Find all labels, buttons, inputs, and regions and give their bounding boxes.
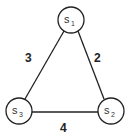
edge-s1-s2: [78, 31, 104, 99]
node-s1: s 1: [58, 7, 84, 33]
edge-label-s1-s3: 3: [25, 51, 32, 65]
graph-diagram: 3 2 4 s 1 s 2 s 3: [0, 0, 128, 137]
node-subscript: 3: [19, 111, 23, 118]
edge-label-s1-s2: 2: [94, 51, 101, 65]
node-subscript: 2: [111, 111, 115, 118]
node-label: s: [104, 104, 110, 116]
node-s3: s 3: [6, 98, 32, 124]
node-s2: s 2: [98, 98, 124, 124]
node-subscript: 1: [71, 20, 75, 27]
node-label: s: [64, 13, 70, 25]
edge-label-s3-s2: 4: [60, 121, 67, 135]
edge-s1-s3: [25, 31, 64, 99]
node-label: s: [12, 104, 18, 116]
